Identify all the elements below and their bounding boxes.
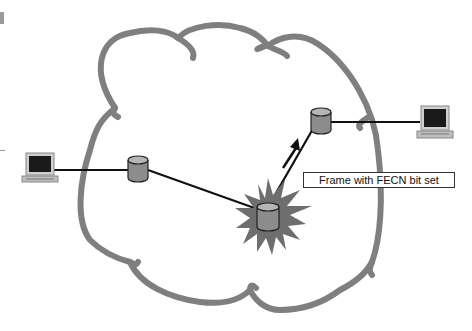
switch-left-icon: [128, 156, 148, 182]
switch-congested-icon: [257, 203, 279, 231]
links: [50, 122, 420, 210]
link-switch-left-switch-congested: [148, 170, 260, 210]
computer-right-icon: [417, 106, 453, 138]
forward-arrow-icon: [283, 138, 300, 168]
frame-relay-cloud: [81, 25, 381, 310]
computer-left-icon: [22, 153, 58, 182]
network-diagram: [0, 0, 472, 331]
switch-right-icon: [311, 108, 331, 134]
fecn-frame-label: Frame with FECN bit set: [303, 172, 455, 188]
